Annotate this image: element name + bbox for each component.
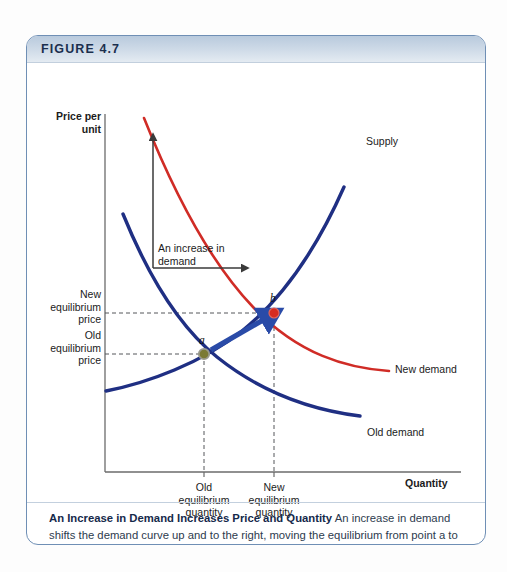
figure-title: FIGURE 4.7 — [41, 42, 120, 56]
caption-lead-in: An Increase in Demand Increases Price an… — [49, 512, 332, 524]
y-tick-label-old-price: Old equilibrium price — [29, 329, 101, 367]
equilibrium-point-b — [269, 308, 279, 318]
supply-curve-label: Supply — [366, 135, 398, 148]
equilibrium-shift-arrow — [211, 316, 270, 350]
chart-area: Price per unit New equilibrium price Old… — [27, 63, 486, 545]
equilibrium-point-a — [199, 349, 209, 359]
old-demand-curve-label: Old demand — [367, 426, 424, 439]
increase-in-demand-annotation: An increase in demand — [158, 242, 250, 267]
caption-divider — [27, 502, 485, 503]
point-b-label: b — [270, 292, 276, 304]
new-demand-curve-label: New demand — [395, 363, 457, 376]
x-axis-label: Quantity — [405, 477, 448, 490]
figure-caption: An Increase in Demand Increases Price an… — [49, 510, 461, 545]
supply-curve — [106, 187, 344, 391]
point-a-label: a — [199, 334, 205, 346]
y-tick-label-new-price: New equilibrium price — [29, 288, 101, 326]
figure-panel: FIGURE 4.7 — [26, 35, 486, 545]
y-axis-label: Price per unit — [49, 110, 101, 135]
page-root: FIGURE 4.7 — [0, 0, 507, 572]
